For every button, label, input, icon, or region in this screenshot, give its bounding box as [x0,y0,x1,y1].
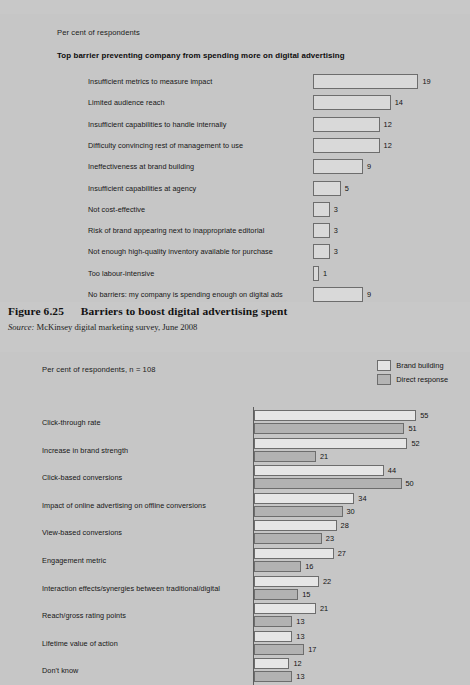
bar-group-bars: 3430 [254,493,367,519]
bar [313,244,330,259]
bar-row: Difficulty convincing rest of management… [0,136,470,158]
bar-category-label: Lifetime value of action [42,639,118,648]
bar-row: 27 [254,548,346,559]
bar [313,287,363,302]
figure-number: Figure 6.25 [8,305,64,317]
bar-row: No barriers: my company is spending enou… [0,285,470,307]
bar-row: 22 [254,576,331,587]
bar [254,631,292,642]
bar [313,74,418,89]
bar-category-label: Interaction effects/synergies between tr… [42,584,220,593]
bar-value-label: 27 [338,548,346,559]
bar-wrap: 12 [313,117,392,132]
bar [313,95,391,110]
bar-category-label: Click-based conversions [42,473,122,482]
bar-wrap: 14 [313,95,403,110]
bar-group: Reach/gross rating points2113 [0,602,470,630]
bar-value-label: 16 [305,561,313,572]
bar-group: Engagement metric2716 [0,547,470,575]
source-label: Source: [8,322,34,332]
bar-row: 34 [254,493,367,504]
bar-category-label: Limited audience reach [88,98,165,107]
bar-group-bars: 1213 [254,658,305,684]
bar-row: Insufficient capabilities at agency5 [0,179,470,201]
legend-item: Brand building [377,360,448,371]
bar-category-label: Risk of brand appearing next to inapprop… [88,226,264,235]
bar [254,423,404,434]
bar-category-label: Too labour-intensive [88,269,154,278]
bar-value-label: 21 [320,603,328,614]
bar [254,438,407,449]
bar-value-label: 12 [293,658,301,669]
bar-category-label: Engagement metric [42,556,106,565]
bar-value-label: 3 [334,202,338,217]
bar-row: 23 [254,533,349,544]
bar-group-bars: 2716 [254,548,346,574]
bar-value-label: 51 [408,423,416,434]
bar-value-label: 12 [384,117,392,132]
bar [254,589,298,600]
legend-swatch-icon [377,360,391,371]
chart-top-subtitle: Per cent of respondents [57,28,140,37]
bar-category-label: Insufficient capabilities at agency [88,184,196,193]
legend-swatch-icon [377,374,391,385]
bar [313,202,330,217]
bar-category-label: Difficulty convincing rest of management… [88,141,243,150]
bar [254,520,337,531]
bar-value-label: 44 [388,465,396,476]
bar-value-label: 12 [384,138,392,153]
bar-group-bars: 1317 [254,631,316,657]
bar-row: Insufficient metrics to measure impact19 [0,72,470,94]
bar [313,117,380,132]
bar-group: View-based conversions2823 [0,519,470,547]
bar [254,616,292,627]
legend-label: Brand building [396,361,443,370]
bar [313,159,363,174]
bar-group: Click-based conversions4450 [0,464,470,492]
bar-value-label: 13 [296,671,304,682]
bar-value-label: 22 [323,576,331,587]
bar-row: 30 [254,506,367,517]
bar [313,138,380,153]
bar-group-bars: 5221 [254,438,420,464]
chart-bottom-subtitle: Per cent of respondents, n = 108 [42,365,156,374]
bar-category-label: Not cost-effective [88,205,145,214]
bar-group: Increase in brand strength5221 [0,437,470,465]
bar-group: Click-through rate5551 [0,409,470,437]
bar-row: 21 [254,603,328,614]
bar-group-bars: 2823 [254,520,349,546]
bar-value-label: 50 [406,478,414,489]
bar-value-label: 17 [308,644,316,655]
bar [313,223,330,238]
figure-source: Source: McKinsey digital marketing surve… [8,322,468,332]
bar-category-label: Click-through rate [42,418,101,427]
page-background: Per cent of respondents Top barrier prev… [0,0,470,685]
bar [313,266,319,281]
bar [313,181,341,196]
bar-row: 44 [254,465,414,476]
bar [254,533,322,544]
bar-value-label: 19 [422,74,430,89]
figure-caption-block: Figure 6.25 Barriers to boost digital ad… [8,305,468,332]
bar-row: 15 [254,589,331,600]
bar-value-label: 3 [334,244,338,259]
chart-top-title: Top barrier preventing company from spen… [57,51,345,60]
bar-category-label: Reach/gross rating points [42,611,126,620]
bar-group-bars: 2215 [254,576,331,602]
bar-wrap: 9 [313,287,371,302]
bar [254,493,354,504]
bar [254,561,301,572]
bar [254,603,316,614]
bar-row: Not enough high-quality inventory availa… [0,242,470,264]
bar-value-label: 15 [302,589,310,600]
bar [254,644,304,655]
bar-wrap: 3 [313,244,338,259]
bar [254,576,319,587]
bar-value-label: 28 [341,520,349,531]
bar-row: Limited audience reach14 [0,93,470,115]
bar-category-label: Insufficient capabilities to handle inte… [88,120,226,129]
bar [254,671,292,682]
bar-value-label: 9 [367,287,371,302]
bar-row: Risk of brand appearing next to inapprop… [0,221,470,243]
bar [254,465,384,476]
